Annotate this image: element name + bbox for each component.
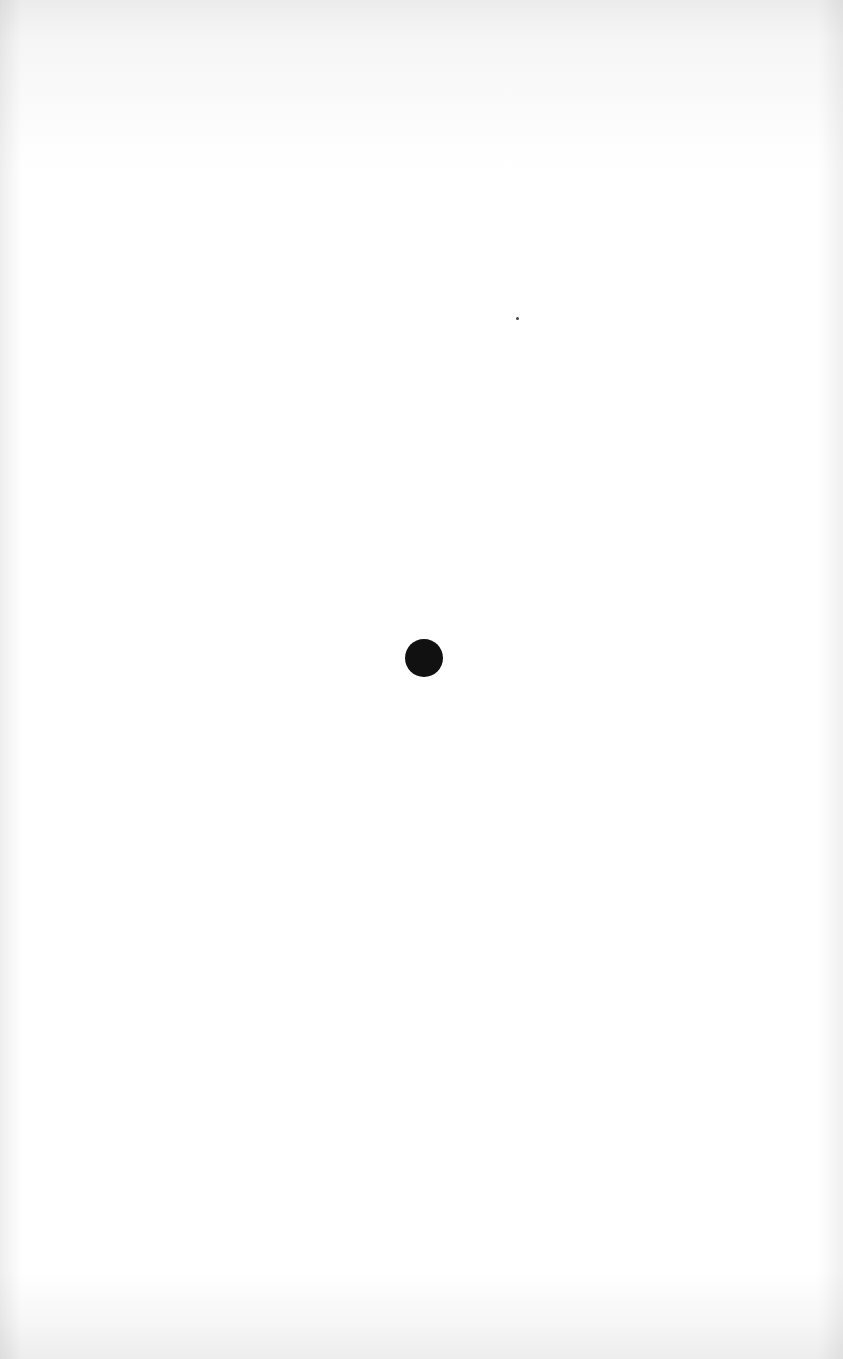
paper-sheet — [0, 0, 843, 1359]
speck-mark — [516, 317, 519, 320]
black-dot — [405, 639, 443, 677]
